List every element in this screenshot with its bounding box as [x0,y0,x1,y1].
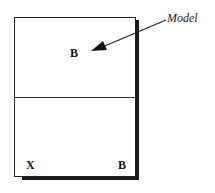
pointer-arrow-icon [0,0,215,193]
